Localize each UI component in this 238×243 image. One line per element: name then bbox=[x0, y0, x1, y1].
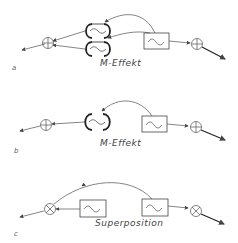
summing-junction-icon bbox=[43, 38, 54, 49]
oscillator-box-left-icon bbox=[80, 200, 106, 217]
oscillator-box-icon bbox=[144, 33, 169, 49]
summing-junction-icon bbox=[191, 122, 202, 133]
panel-b bbox=[20, 101, 225, 140]
panel-c-caption: Superposition bbox=[95, 218, 164, 228]
panel-a bbox=[22, 15, 225, 59]
output-arrow-right bbox=[202, 47, 225, 59]
summing-junction-icon bbox=[192, 39, 203, 50]
output-arrow-left bbox=[22, 44, 45, 50]
feedback-arrow-upper bbox=[105, 15, 155, 33]
multiplier-icon bbox=[191, 206, 202, 217]
panel-a-caption: M-Effekt bbox=[100, 58, 141, 68]
summing-junction-icon bbox=[41, 120, 52, 131]
panel-c-letter: c bbox=[14, 230, 18, 238]
panel-b-letter: b bbox=[14, 147, 18, 155]
oscillator-box-icon bbox=[142, 116, 167, 132]
diagram-canvas bbox=[0, 0, 238, 243]
oscillator-box-right-icon bbox=[142, 199, 168, 216]
feedback-arc bbox=[54, 183, 152, 204]
feedback-arrow bbox=[102, 101, 152, 116]
panel-b-caption: M-Effekt bbox=[100, 138, 141, 148]
panel-a-letter: a bbox=[12, 64, 16, 72]
multiplier-icon bbox=[45, 204, 56, 215]
